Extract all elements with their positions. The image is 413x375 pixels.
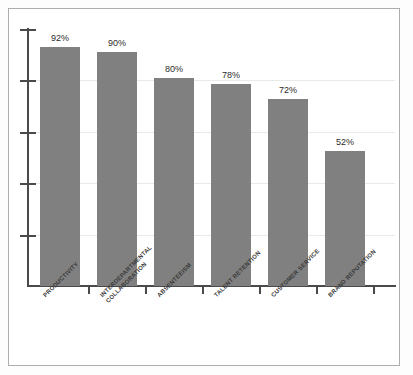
- x-axis-tick: [202, 287, 204, 294]
- bar-value-label: 92%: [40, 33, 80, 43]
- x-axis-tick: [145, 287, 147, 294]
- x-axis-tick: [373, 287, 375, 294]
- bar[interactable]: [268, 99, 308, 286]
- bar-value-label: 52%: [325, 137, 365, 147]
- bar-value-label: 80%: [154, 64, 194, 74]
- x-axis-tick: [88, 287, 90, 294]
- x-axis-tick: [259, 287, 261, 294]
- bar-value-label: 90%: [97, 38, 137, 48]
- bar[interactable]: [40, 47, 80, 286]
- bar-value-label: 72%: [268, 85, 308, 95]
- x-axis-tick: [316, 287, 318, 294]
- bar-chart-figure: 92%90%80%78%72%52% PRODUCTIVITYINTERDEPA…: [0, 0, 413, 375]
- bar[interactable]: [97, 52, 137, 286]
- bar[interactable]: [154, 78, 194, 286]
- bar[interactable]: [211, 84, 251, 286]
- bar-value-label: 78%: [211, 70, 251, 80]
- plot-area: [28, 29, 395, 286]
